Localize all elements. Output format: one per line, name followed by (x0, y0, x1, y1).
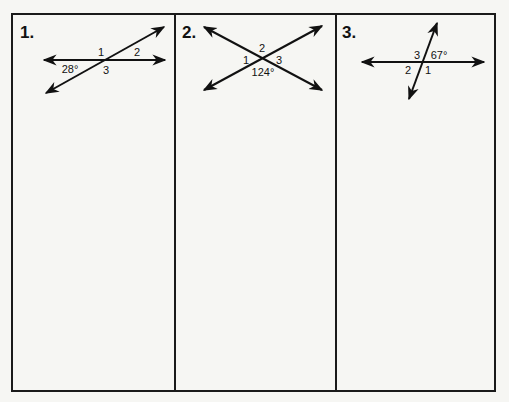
panel-3-angle-1-label: 1 (425, 65, 431, 76)
panel-3-angle-2-label: 2 (405, 65, 411, 76)
panel-3-given-angle-label: 67° (431, 50, 448, 61)
panel-3-angle-3-label: 3 (414, 50, 420, 61)
worksheet: 1. 1 2 28° 3 2. 2 1 (0, 0, 509, 402)
